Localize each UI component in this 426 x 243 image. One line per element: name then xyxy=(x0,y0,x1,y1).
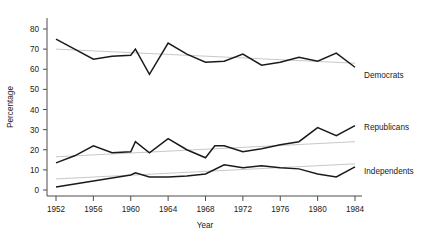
x-axis-ticks: 195219561960196419681972197619801984 xyxy=(47,196,365,214)
series-label-independents: Independents xyxy=(364,167,414,176)
y-axis-title: Percentage xyxy=(6,86,15,128)
series-line-independents xyxy=(56,165,355,187)
series-labels-group: DemocratsRepublicansIndependents xyxy=(364,71,414,176)
x-axis-title: Year xyxy=(197,221,214,230)
x-tick-label: 1960 xyxy=(122,205,141,214)
y-axis-ticks: 80706050403020100 xyxy=(30,25,47,195)
party-identification-line-chart: 80706050403020100 1952195619601964196819… xyxy=(0,0,426,243)
series-line-democrats xyxy=(56,39,355,74)
y-tick-label: 10 xyxy=(30,166,40,175)
trend-lines-group xyxy=(56,49,355,179)
y-tick-label: 50 xyxy=(30,85,40,94)
x-tick-label: 1968 xyxy=(196,205,215,214)
y-tick-label: 20 xyxy=(30,146,40,155)
series-label-republicans: Republicans xyxy=(364,123,409,132)
y-tick-label: 0 xyxy=(34,186,39,195)
y-tick-label: 30 xyxy=(30,126,40,135)
chart-container: 80706050403020100 1952195619601964196819… xyxy=(0,0,426,243)
x-tick-label: 1964 xyxy=(159,205,178,214)
y-tick-label: 40 xyxy=(30,106,40,115)
x-tick-label: 1972 xyxy=(234,205,253,214)
x-tick-label: 1976 xyxy=(271,205,290,214)
series-label-democrats: Democrats xyxy=(364,71,404,80)
y-tick-label: 80 xyxy=(30,25,40,34)
x-tick-label: 1984 xyxy=(346,205,365,214)
x-tick-label: 1952 xyxy=(47,205,66,214)
x-tick-label: 1956 xyxy=(84,205,103,214)
y-tick-label: 60 xyxy=(30,65,40,74)
x-tick-label: 1980 xyxy=(309,205,328,214)
y-tick-label: 70 xyxy=(30,45,40,54)
trend-line-democrats xyxy=(56,49,355,63)
